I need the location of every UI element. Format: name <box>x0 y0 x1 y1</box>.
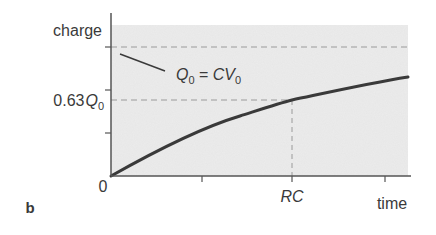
charge-time-chart: charge 0.63Q0 Q0 = CV0 0 RC time b <box>0 0 436 235</box>
y-axis-label: charge <box>53 22 102 39</box>
rc-tick-label: RC <box>280 188 304 205</box>
origin-label: 0 <box>99 178 108 195</box>
x-axis-label: time <box>377 195 407 212</box>
q063-label: 0.63Q0 <box>53 92 104 112</box>
panel-label: b <box>25 199 34 216</box>
